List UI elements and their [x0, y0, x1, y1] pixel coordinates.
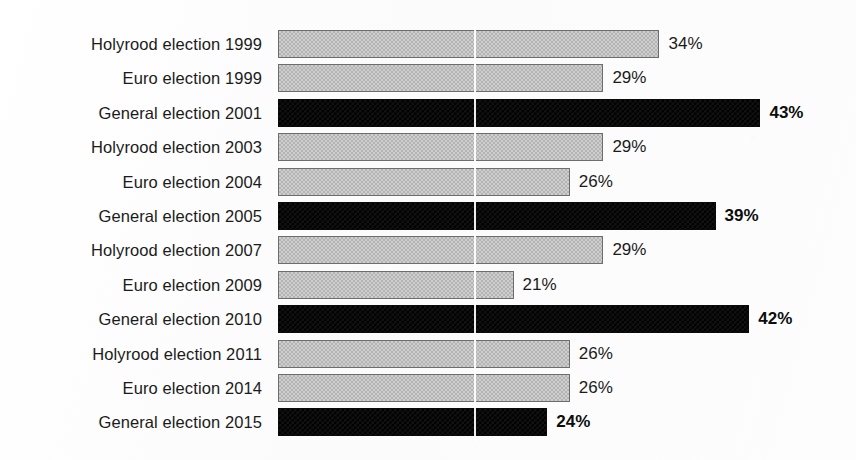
- election-turnout-bar-chart: Holyrood election 199934%Euro election 1…: [0, 0, 856, 460]
- bar-row: General election 201524%: [0, 405, 856, 439]
- value-label: 42%: [758, 302, 792, 336]
- value-label: 39%: [725, 199, 759, 233]
- category-label: General election 2010: [0, 302, 262, 336]
- bar-row: General election 200539%: [0, 199, 856, 233]
- value-label: 26%: [579, 165, 613, 199]
- bar-other-election: [278, 271, 514, 299]
- bar-row: Holyrood election 200329%: [0, 130, 856, 164]
- category-label: Holyrood election 1999: [0, 27, 262, 61]
- bar-row: Holyrood election 201126%: [0, 337, 856, 371]
- bar-row: Euro election 200426%: [0, 165, 856, 199]
- category-label: General election 2005: [0, 199, 262, 233]
- bar-general-election: [278, 99, 760, 127]
- bar-row: General election 200143%: [0, 96, 856, 130]
- category-label: Holyrood election 2007: [0, 233, 262, 267]
- vertical-gridline: [474, 27, 476, 442]
- bar-other-election: [278, 236, 603, 264]
- value-label: 29%: [612, 61, 646, 95]
- category-label: Euro election 1999: [0, 61, 262, 95]
- value-label: 29%: [612, 130, 646, 164]
- value-label: 29%: [612, 233, 646, 267]
- bar-row: Holyrood election 200729%: [0, 233, 856, 267]
- bar-other-election: [278, 340, 570, 368]
- bar-general-election: [278, 408, 547, 436]
- bar-other-election: [278, 64, 603, 92]
- category-label: Holyrood election 2003: [0, 130, 262, 164]
- value-label: 24%: [556, 405, 590, 439]
- value-label: 21%: [523, 268, 557, 302]
- value-label: 34%: [668, 27, 702, 61]
- value-label: 43%: [769, 96, 803, 130]
- bar-row: Euro election 199929%: [0, 61, 856, 95]
- bar-general-election: [278, 305, 749, 333]
- bar-other-election: [278, 168, 570, 196]
- category-label: Euro election 2009: [0, 268, 262, 302]
- bar-row: Euro election 200921%: [0, 268, 856, 302]
- category-label: General election 2001: [0, 96, 262, 130]
- category-label: Holyrood election 2011: [0, 337, 262, 371]
- bar-other-election: [278, 374, 570, 402]
- value-label: 26%: [579, 371, 613, 405]
- bar-general-election: [278, 202, 716, 230]
- bar-other-election: [278, 30, 659, 58]
- category-label: Euro election 2004: [0, 165, 262, 199]
- bar-row: Euro election 201426%: [0, 371, 856, 405]
- bar-row: General election 201042%: [0, 302, 856, 336]
- bar-row: Holyrood election 199934%: [0, 27, 856, 61]
- bar-other-election: [278, 133, 603, 161]
- category-label: Euro election 2014: [0, 371, 262, 405]
- value-label: 26%: [579, 337, 613, 371]
- category-label: General election 2015: [0, 405, 262, 439]
